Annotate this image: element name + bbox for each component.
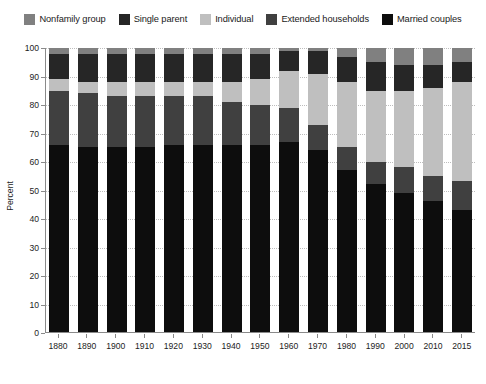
bar-segment[interactable] bbox=[193, 145, 213, 332]
bar-segment[interactable] bbox=[308, 125, 328, 151]
x-tick-mark bbox=[173, 334, 174, 338]
bar-segment[interactable] bbox=[366, 62, 386, 90]
bar-segment[interactable] bbox=[164, 54, 184, 82]
stacked-bar[interactable] bbox=[164, 48, 184, 332]
bar-segment[interactable] bbox=[366, 184, 386, 332]
bar-segment[interactable] bbox=[78, 93, 98, 147]
bar-segment[interactable] bbox=[423, 48, 443, 65]
bar-segment[interactable] bbox=[250, 145, 270, 332]
bar-segment[interactable] bbox=[279, 108, 299, 142]
bar-segment[interactable] bbox=[164, 145, 184, 332]
bar-segment[interactable] bbox=[107, 54, 127, 82]
bar-segment[interactable] bbox=[452, 82, 472, 181]
bar-segment[interactable] bbox=[279, 142, 299, 332]
bar-segment[interactable] bbox=[193, 54, 213, 82]
bar-segment[interactable] bbox=[250, 105, 270, 145]
stacked-bar[interactable] bbox=[279, 48, 299, 332]
bar-segment[interactable] bbox=[452, 48, 472, 62]
bar-segment[interactable] bbox=[78, 82, 98, 93]
bar-segment[interactable] bbox=[423, 65, 443, 88]
bar-segment[interactable] bbox=[222, 145, 242, 332]
bar-segment[interactable] bbox=[279, 51, 299, 71]
bar-segment[interactable] bbox=[107, 147, 127, 332]
bar-segment[interactable] bbox=[308, 51, 328, 74]
bar-segment[interactable] bbox=[337, 57, 357, 83]
bar-segment[interactable] bbox=[337, 48, 357, 57]
legend-item[interactable]: Single parent bbox=[119, 14, 188, 25]
bar-segment[interactable] bbox=[222, 54, 242, 82]
bar-segment[interactable] bbox=[49, 91, 69, 145]
stacked-bar[interactable] bbox=[308, 48, 328, 332]
x-tick: 1940 bbox=[221, 334, 241, 351]
y-tick-label: 40 bbox=[29, 214, 39, 224]
x-tick-mark bbox=[432, 334, 433, 338]
bar-segment[interactable] bbox=[394, 91, 414, 168]
stacked-bar[interactable] bbox=[49, 48, 69, 332]
x-tick-label: 1970 bbox=[308, 341, 328, 351]
chart-legend: Nonfamily groupSingle parentIndividualEx… bbox=[0, 14, 486, 25]
x-tick: 1930 bbox=[192, 334, 212, 351]
bar-segment[interactable] bbox=[423, 201, 443, 332]
bar-segment[interactable] bbox=[279, 71, 299, 108]
stacked-bar[interactable] bbox=[423, 48, 443, 332]
bar-segment[interactable] bbox=[337, 147, 357, 170]
bar-segment[interactable] bbox=[366, 48, 386, 62]
bar-segment[interactable] bbox=[49, 54, 69, 80]
stacked-bar[interactable] bbox=[394, 48, 414, 332]
bar-segment[interactable] bbox=[193, 82, 213, 96]
bar-segment[interactable] bbox=[164, 82, 184, 96]
stacked-bar[interactable] bbox=[337, 48, 357, 332]
bar-segment[interactable] bbox=[337, 82, 357, 147]
x-tick-label: 1950 bbox=[250, 341, 270, 351]
bar-segment[interactable] bbox=[222, 82, 242, 102]
bar-segment[interactable] bbox=[49, 145, 69, 332]
bar-segment[interactable] bbox=[193, 96, 213, 144]
bar-segment[interactable] bbox=[337, 170, 357, 332]
bar-segment[interactable] bbox=[308, 150, 328, 332]
bar-segment[interactable] bbox=[394, 193, 414, 332]
stacked-bar[interactable] bbox=[452, 48, 472, 332]
bar-segment[interactable] bbox=[366, 91, 386, 162]
bar-segment[interactable] bbox=[135, 54, 155, 82]
bar-segment[interactable] bbox=[423, 176, 443, 202]
stacked-bar[interactable] bbox=[366, 48, 386, 332]
bar-segment[interactable] bbox=[222, 102, 242, 145]
legend-swatch-icon bbox=[24, 14, 35, 25]
bar-segment[interactable] bbox=[164, 96, 184, 144]
bar-segment[interactable] bbox=[394, 65, 414, 91]
legend-item-label: Individual bbox=[215, 14, 253, 25]
x-tick-label: 2015 bbox=[452, 341, 472, 351]
bar-segment[interactable] bbox=[250, 79, 270, 105]
bar-segment[interactable] bbox=[250, 54, 270, 80]
bar-segment[interactable] bbox=[423, 88, 443, 176]
bar-segment[interactable] bbox=[452, 181, 472, 209]
bar-segment[interactable] bbox=[78, 147, 98, 332]
bar-segment[interactable] bbox=[107, 82, 127, 96]
bar-segment[interactable] bbox=[394, 48, 414, 65]
bar-segment[interactable] bbox=[107, 96, 127, 147]
stacked-bar[interactable] bbox=[193, 48, 213, 332]
bar-segment[interactable] bbox=[308, 74, 328, 125]
bar-segment[interactable] bbox=[49, 79, 69, 90]
bar-segment[interactable] bbox=[366, 162, 386, 185]
bar-segment[interactable] bbox=[135, 96, 155, 147]
legend-item[interactable]: Individual bbox=[200, 14, 253, 25]
stacked-bar[interactable] bbox=[250, 48, 270, 332]
legend-item[interactable]: Married couples bbox=[382, 14, 462, 25]
x-tick: 2010 bbox=[423, 334, 443, 351]
stacked-bar[interactable] bbox=[78, 48, 98, 332]
y-tick-label: 50 bbox=[29, 186, 39, 196]
legend-item[interactable]: Nonfamily group bbox=[24, 14, 105, 25]
x-tick-label: 1890 bbox=[77, 341, 97, 351]
bar-group bbox=[46, 48, 475, 332]
bar-segment[interactable] bbox=[135, 82, 155, 96]
stacked-bar[interactable] bbox=[222, 48, 242, 332]
legend-item[interactable]: Extended households bbox=[266, 14, 369, 25]
stacked-bar[interactable] bbox=[107, 48, 127, 332]
bar-segment[interactable] bbox=[452, 62, 472, 82]
stacked-bar[interactable] bbox=[135, 48, 155, 332]
bar-segment[interactable] bbox=[135, 147, 155, 332]
bar-segment[interactable] bbox=[78, 54, 98, 82]
bar-segment[interactable] bbox=[394, 167, 414, 193]
bar-segment[interactable] bbox=[452, 210, 472, 332]
